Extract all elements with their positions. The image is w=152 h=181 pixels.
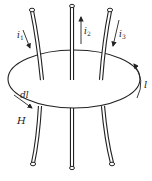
wire-bottom-middle	[70, 108, 75, 170]
wire-top-middle	[70, 4, 75, 80]
label-i2: i2	[84, 26, 91, 37]
ampere-loop-diagram: i1 i2 i3 l dl H	[0, 0, 152, 181]
label-loop-l: l	[144, 79, 147, 90]
wire-top-right	[101, 8, 113, 80]
label-i3: i3	[119, 29, 126, 40]
label-i1: i1	[17, 30, 24, 41]
current-i1-arrow-icon	[23, 30, 30, 48]
wire-bottom-left	[30, 106, 40, 166]
label-dl: dl	[20, 90, 29, 100]
wire-top-left	[29, 8, 42, 80]
wire-bottom-right	[103, 106, 115, 166]
label-H: H	[16, 115, 26, 126]
